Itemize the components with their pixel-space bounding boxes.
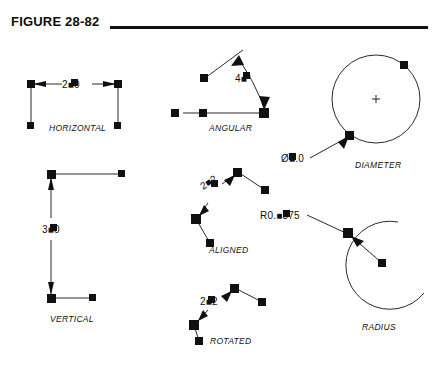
dimension-aligned[interactable]: 2■2 ALIGNED (191, 168, 269, 255)
grip-square[interactable] (400, 61, 408, 69)
grip-square[interactable] (230, 284, 239, 293)
grip-square[interactable] (47, 294, 56, 303)
grip-square[interactable] (345, 131, 354, 140)
grip-square-text[interactable] (289, 153, 296, 160)
grip-square-text[interactable] (71, 79, 78, 86)
dimension-vertical[interactable]: 3■0 VERTICAL (42, 170, 125, 324)
grip-square[interactable] (258, 298, 266, 306)
dimension-radius[interactable]: R0.■375 RADIUS (260, 210, 424, 332)
grip-square-text[interactable] (211, 180, 218, 187)
grip-square[interactable] (171, 109, 179, 117)
arrowhead (259, 96, 270, 110)
grip-square[interactable] (189, 320, 199, 330)
caption-horizontal: HORIZONTAL (49, 123, 106, 133)
dimension-rotated[interactable]: 2■2 ROTATED (189, 284, 266, 346)
caption-aligned: ALIGNED (208, 245, 248, 255)
caption-rotated: ROTATED (210, 336, 251, 346)
grip-square[interactable] (199, 109, 207, 117)
caption-vertical: VERTICAL (50, 314, 94, 324)
grip-square[interactable] (343, 228, 353, 238)
grip-square[interactable] (261, 186, 269, 194)
leader-line (307, 215, 348, 234)
grip-square[interactable] (118, 170, 125, 177)
grip-square[interactable] (27, 80, 35, 88)
arrowhead (48, 282, 54, 295)
extension-line (238, 172, 265, 190)
grip-square[interactable] (378, 259, 386, 267)
figure-root: FIGURE 28-82 2■0 HORIZONTAL (0, 0, 443, 367)
grip-square-text[interactable] (243, 72, 250, 79)
grip-square-text[interactable] (208, 296, 215, 303)
grip-square[interactable] (195, 337, 203, 345)
grip-square[interactable] (233, 168, 242, 177)
grip-square[interactable] (259, 108, 269, 118)
dimension-diameter[interactable]: Ø■.0 DIAMETER (281, 55, 420, 170)
caption-diameter: DIAMETER (355, 160, 401, 170)
arrowhead (231, 55, 244, 66)
grip-square[interactable] (47, 170, 56, 179)
grip-square[interactable] (114, 80, 122, 88)
caption-angular: ANGULAR (208, 123, 252, 133)
dimension-text[interactable]: R0.■375 (260, 210, 300, 221)
grip-square[interactable] (191, 214, 201, 224)
grip-square[interactable] (200, 74, 208, 82)
dimension-angular[interactable]: 4■° ANGULAR (171, 50, 270, 133)
grip-square[interactable] (114, 122, 121, 129)
grip-square-text[interactable] (283, 210, 290, 217)
grip-square[interactable] (27, 122, 34, 129)
dimension-horizontal[interactable]: 2■0 HORIZONTAL (27, 79, 122, 133)
grip-square[interactable] (89, 294, 96, 301)
grip-square-text[interactable] (50, 224, 57, 231)
caption-radius: RADIUS (362, 322, 396, 332)
drawing-canvas: 2■0 HORIZONTAL 4■° ANGULAR (0, 0, 443, 367)
extension-line (235, 288, 262, 302)
